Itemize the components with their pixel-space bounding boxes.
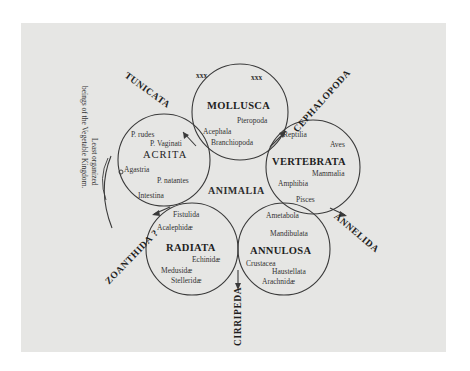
label-p-vaginati: P. Vaginati bbox=[150, 140, 182, 148]
label-medusidae: Medusidæ bbox=[161, 267, 192, 275]
mollusca-mark-left: xxx bbox=[196, 72, 207, 80]
vegetable-kingdom-arc bbox=[104, 156, 112, 228]
side-note-line1: Least organized bbox=[91, 138, 99, 186]
label-cirripeda: CIRRIPEDA bbox=[234, 287, 244, 346]
label-pteropoda: Pteropoda bbox=[237, 117, 267, 125]
label-ametabola: Ametabola bbox=[266, 212, 299, 220]
label-vertebrata: VERTEBRATA bbox=[272, 157, 346, 168]
label-radiata: RADIATA bbox=[166, 243, 216, 254]
label-mandibulata: Mandibulata bbox=[270, 230, 308, 238]
label-branchiopoda: Branchiopoda bbox=[211, 139, 253, 147]
label-animalia: ANIMALIA bbox=[208, 186, 265, 196]
side-note-line2: beings of the Vegetable Kingdom. bbox=[81, 86, 89, 188]
arrowhead-zoanthida bbox=[152, 210, 160, 216]
label-amphibia: Amphibia bbox=[278, 180, 308, 188]
label-agastria: Agastria bbox=[124, 166, 149, 174]
label-acephala: Acephala bbox=[203, 128, 231, 136]
label-mammalia: Mammalia bbox=[312, 170, 345, 178]
mollusca-mark-right: xxx bbox=[251, 74, 262, 82]
label-p-natantes: P. natantes bbox=[157, 177, 189, 185]
label-acrita: ACRITA bbox=[143, 150, 187, 161]
label-intestina: Intestina bbox=[138, 192, 164, 200]
label-stelleridae: Stelleridæ bbox=[171, 277, 201, 285]
label-arachnidae: Arachnidæ bbox=[262, 278, 295, 286]
label-reptilia: Reptilia bbox=[283, 131, 307, 139]
label-annulosa: ANNULOSA bbox=[250, 246, 311, 257]
label-p-rudes: P. rudes bbox=[131, 131, 154, 139]
label-aves: Aves bbox=[330, 141, 345, 149]
label-acalephidae: Acalephidæ bbox=[157, 224, 193, 232]
label-fistulida: Fistulida bbox=[173, 211, 199, 219]
label-echinidae: Echinidæ bbox=[192, 256, 220, 264]
label-mollusca: MOLLUSCA bbox=[207, 101, 270, 112]
label-haustellata: Haustellata bbox=[272, 268, 306, 276]
label-pisces: Pisces bbox=[296, 196, 315, 204]
